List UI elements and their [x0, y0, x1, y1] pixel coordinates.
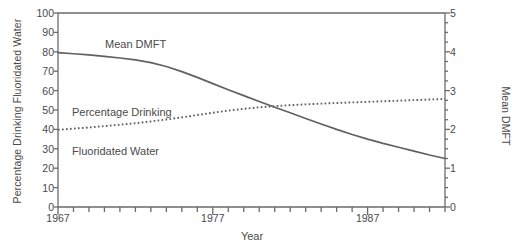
chart-figure: Percentage Drinking Fluoridated Water Me… — [0, 0, 516, 251]
annotation-percentage-fluoridated: Percentage Drinking Fluoridated Water — [72, 80, 172, 184]
annotation-mean-dmft: Mean DMFT — [105, 38, 166, 51]
tick-marks-right — [445, 13, 450, 207]
tick-marks-x — [58, 207, 445, 215]
annotation-line-1: Percentage Drinking — [72, 106, 172, 119]
annotation-line-2: Fluoridated Water — [72, 145, 172, 158]
